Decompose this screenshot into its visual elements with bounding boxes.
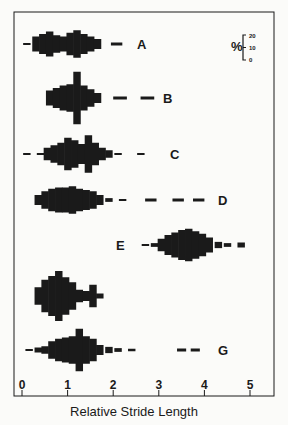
histogram-bin <box>46 32 53 57</box>
histogram-bin <box>62 338 69 363</box>
histogram-bin <box>69 282 76 310</box>
histogram-a <box>23 30 122 58</box>
histogram-bin <box>25 349 32 351</box>
histogram-bin <box>48 341 55 359</box>
histogram-bin <box>66 84 73 112</box>
histogram-bin <box>96 345 103 355</box>
percent-symbol: % <box>231 39 243 54</box>
histogram-bin <box>39 34 46 54</box>
histogram-bin <box>158 239 165 252</box>
x-tick-label: 4 <box>201 378 208 392</box>
histogram-e <box>142 229 245 262</box>
histogram-bin <box>82 190 89 210</box>
histogram-bin <box>35 287 42 305</box>
x-axis: 012345 <box>19 378 254 396</box>
histogram-bin <box>41 280 48 313</box>
histogram-bin <box>78 144 85 164</box>
histogram-bin <box>69 336 76 364</box>
histogram-bin <box>87 37 94 52</box>
histogram-bin <box>62 277 69 315</box>
histogram-bin <box>105 198 112 202</box>
histogram-bin <box>62 188 69 213</box>
histogram-bin <box>76 329 83 372</box>
series-labels: ABCDEFG <box>88 37 228 358</box>
histogram-bin <box>60 86 67 111</box>
histogram-bin <box>151 243 158 247</box>
histogram-bin <box>41 191 48 209</box>
histogram-bin <box>114 153 121 155</box>
histogram-bin <box>35 195 42 205</box>
histogram-bin <box>80 86 87 111</box>
x-tick-label: 0 <box>19 378 26 392</box>
histogram-bin <box>53 88 60 108</box>
range-dash <box>191 349 200 352</box>
histogram-bin <box>46 91 53 106</box>
histogram-bin <box>53 35 60 53</box>
histogram-bin <box>55 188 62 213</box>
series-label-c: C <box>170 147 180 162</box>
range-dash <box>172 199 183 202</box>
scale-tick-10: 10 <box>249 45 256 51</box>
histogram-bin <box>82 336 89 364</box>
histogram-bin <box>32 37 39 52</box>
scale-tick-0: 0 <box>249 57 253 63</box>
histogram-bin <box>142 244 149 246</box>
histogram-bin <box>44 148 51 161</box>
histogram-bin <box>71 140 78 168</box>
histogram-bin <box>35 348 42 353</box>
histogram-bin <box>87 89 94 107</box>
histogram-bin <box>23 153 30 155</box>
histogram-bin <box>119 199 126 201</box>
x-tick-label: 1 <box>64 378 71 392</box>
histogram-bin <box>85 135 92 173</box>
histogram-b <box>46 72 154 125</box>
histogram-bin <box>55 271 62 321</box>
histogram-bin <box>51 145 58 163</box>
histogram-bin <box>92 143 99 166</box>
range-dash <box>141 97 155 100</box>
histogram-bin <box>178 230 185 260</box>
histogram-bin <box>185 229 192 262</box>
histogram-bin <box>48 276 55 316</box>
histogram-bin <box>48 189 55 212</box>
histogram-bin <box>105 150 112 158</box>
histogram-bin <box>137 153 144 155</box>
histograms <box>23 30 245 371</box>
histogram-bin <box>66 33 73 56</box>
histogram-bin <box>171 233 178 258</box>
histogram-d <box>35 186 205 214</box>
series-label-f: F <box>88 289 96 304</box>
series-label-d: D <box>218 193 227 208</box>
histogram-bin <box>224 243 231 247</box>
histogram-bin <box>64 138 71 171</box>
range-dash <box>193 199 204 202</box>
histogram-bin <box>37 153 44 155</box>
histogram-bin <box>55 339 62 362</box>
histogram-bin <box>192 231 199 259</box>
range-dash <box>145 199 156 202</box>
histogram-bin <box>206 238 213 253</box>
stride-length-chart: ABCDEFG 012345 Relative Stride Length % … <box>0 0 288 425</box>
histogram-bin <box>89 191 96 209</box>
histogram-bin <box>73 72 80 125</box>
histogram-bin <box>114 348 121 352</box>
series-label-a: A <box>137 37 147 52</box>
histogram-g <box>25 329 199 372</box>
scale-tick-20: 20 <box>249 33 256 39</box>
histogram-bin <box>94 39 101 49</box>
histogram-bin <box>96 195 103 205</box>
range-dash <box>111 43 122 46</box>
percent-scale-bar: % 20 10 0 <box>231 33 256 63</box>
x-tick-label: 2 <box>110 378 117 392</box>
series-label-e: E <box>116 238 125 253</box>
histogram-bin <box>76 290 83 303</box>
series-label-b: B <box>163 91 172 106</box>
histogram-bin <box>23 43 30 45</box>
range-dash <box>113 97 127 100</box>
histogram-bin <box>57 143 64 166</box>
histogram-bin <box>89 339 96 362</box>
histogram-bin <box>80 34 87 54</box>
histogram-bin <box>73 30 80 58</box>
histogram-bin <box>96 294 103 299</box>
histogram-bin <box>69 186 76 214</box>
